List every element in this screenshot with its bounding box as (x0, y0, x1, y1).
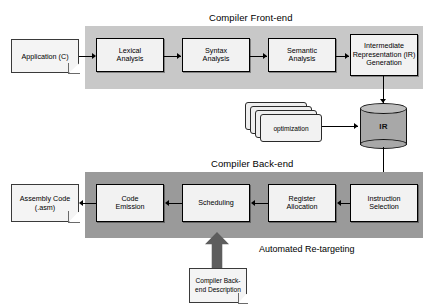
arrowhead-lexical-to-syntax (177, 53, 181, 59)
arrowhead-emission-to-assembly (79, 200, 83, 206)
stage-instruction-selection: Instruction Selection (350, 184, 418, 222)
connector-optimization-to-store (322, 126, 358, 127)
assembly-line-2: Code (53, 194, 70, 203)
stage-scheduling: Scheduling (182, 184, 250, 222)
cylinder-top-ellipse (360, 103, 407, 114)
arrowhead-syntax-to-semantic (263, 53, 267, 59)
stage-syntax-analysis: Syntax Analysis (182, 38, 250, 72)
automated-retargeting-label: Automated Re-targeting (259, 244, 355, 254)
optimization-label: optimization (273, 125, 308, 132)
stage-code-emission: Code Emission (96, 184, 164, 222)
optimization-sheet-1: optimization (260, 114, 322, 142)
application-line-1: Application (21, 52, 56, 61)
optimization-stack: optimization (245, 102, 323, 144)
ir-gen-line-3: Generation (352, 59, 417, 67)
assembly-fold-icon (68, 211, 80, 223)
stage-semantic-analysis: Semantic Analysis (268, 38, 336, 72)
isel-line-2: Selection (366, 203, 401, 211)
front-end-section-title: Compiler Front-end (209, 12, 293, 23)
compiler-architecture-diagram: Compiler Front-end Application (C) Lexic… (0, 0, 433, 308)
arrowhead-scheduling-to-emission (165, 200, 169, 206)
back-end-section-title: Compiler Back-end (211, 158, 293, 169)
backend-description-fold-icon (238, 293, 248, 304)
assembly-line-1: Assembly (20, 194, 51, 203)
stage-register-allocation: Register Allocation (268, 184, 336, 222)
backend-desc-line-3: Description (208, 286, 241, 293)
regalloc-line-2: Allocation (285, 203, 318, 211)
emission-line-2: Emission (114, 203, 145, 211)
stage-ir-generation: Intermediate Representation (IR) Generat… (350, 34, 418, 76)
arrowhead-optimization-to-store (354, 123, 358, 129)
lexical-line-2: Analysis (116, 55, 145, 63)
connector-regalloc-to-scheduling (254, 203, 268, 204)
stage-lexical-analysis: Lexical Analysis (96, 38, 164, 72)
application-fold-icon (68, 63, 80, 74)
scheduling-line-1: Scheduling (197, 199, 235, 207)
ir-store-label: IR (360, 122, 407, 131)
connector-isel-to-regalloc (340, 203, 350, 204)
backend-desc-line-1: Compiler (195, 277, 221, 284)
arrowhead-regalloc-to-scheduling (251, 200, 255, 206)
syntax-line-2: Analysis (202, 55, 231, 63)
connector-emission-to-assembly (82, 203, 96, 204)
arrowhead-semantic-to-ir-gen (345, 53, 349, 59)
ir-store-cylinder: IR (360, 103, 407, 151)
application-line-2: (C) (59, 52, 69, 61)
assembly-line-3: (.asm) (35, 203, 55, 212)
arrowhead-isel-to-regalloc (337, 200, 341, 206)
connector-scheduling-to-emission (168, 203, 182, 204)
semantic-line-2: Analysis (286, 55, 318, 63)
